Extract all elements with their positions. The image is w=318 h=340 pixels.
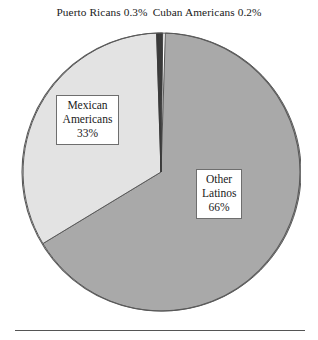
small-slice-caption: Puerto Ricans 0.3%Cuban Americans 0.2% <box>0 5 318 19</box>
slice-label-line-2: Americans <box>62 112 113 126</box>
slice-label-value: 33% <box>62 126 113 140</box>
slice-label-line-1: Other <box>202 172 236 186</box>
slice-label-line-2: Latinos <box>202 186 236 200</box>
slice-label-other-latinos: Other Latinos 66% <box>196 169 242 219</box>
caption-cuban-americans: Cuban Americans 0.2% <box>153 6 262 18</box>
pie-chart-figure: Puerto Ricans 0.3%Cuban Americans 0.2% M… <box>0 0 318 340</box>
footer-divider <box>15 330 305 331</box>
pie-graphic <box>21 32 301 312</box>
pie-svg <box>21 32 301 312</box>
slice-label-value: 66% <box>202 200 236 214</box>
slice-label-line-1: Mexican <box>62 98 113 112</box>
slice-label-mexican-americans: Mexican Americans 33% <box>56 95 119 145</box>
caption-puerto-ricans: Puerto Ricans 0.3% <box>56 6 147 18</box>
